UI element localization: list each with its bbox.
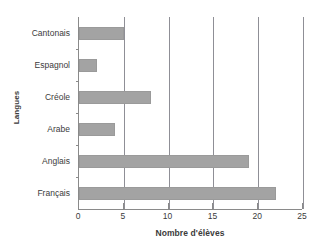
- bar: [79, 155, 249, 168]
- x-axis-tick-label: 20: [252, 212, 261, 221]
- bar: [79, 91, 151, 104]
- bar: [79, 123, 115, 136]
- plot-area: [78, 17, 303, 209]
- x-axis-title: Nombre d'élèves: [78, 228, 302, 238]
- bar: [79, 187, 276, 200]
- y-axis-tick-labels: CantonaisEspagnolCréoleArabeAnglaisFranç…: [20, 17, 74, 209]
- y-axis-tick-label: Français: [20, 177, 74, 209]
- bar: [79, 59, 97, 72]
- x-axis-tick: [302, 203, 303, 209]
- x-axis-tick: [257, 203, 258, 209]
- x-axis-tick: [212, 203, 213, 209]
- y-axis-tick-label: Anglais: [20, 145, 74, 177]
- bar: [79, 27, 124, 40]
- x-axis-line: [78, 209, 302, 210]
- x-axis-tick-label: 15: [208, 212, 217, 221]
- x-axis-tick: [168, 203, 169, 209]
- gridline: [303, 17, 304, 209]
- x-axis-tick-label: 10: [163, 212, 172, 221]
- x-axis-tick: [123, 203, 124, 209]
- bar-series: [79, 17, 303, 209]
- x-axis-tick-labels: 0510152025: [78, 212, 302, 225]
- x-axis-tick-label: 0: [76, 212, 81, 221]
- bar-row: [79, 49, 303, 81]
- y-axis-tick-label: Créole: [20, 81, 74, 113]
- bar-row: [79, 81, 303, 113]
- bar-row: [79, 17, 303, 49]
- y-axis-tick-label: Arabe: [20, 113, 74, 145]
- x-axis-tick-label: 25: [297, 212, 306, 221]
- x-axis-tick-label: 5: [120, 212, 125, 221]
- bar-chart-figure: Langues CantonaisEspagnolCréoleArabeAngl…: [0, 0, 331, 251]
- bar-row: [79, 113, 303, 145]
- y-axis-tick-label: Espagnol: [20, 49, 74, 81]
- x-axis-tick: [78, 203, 79, 209]
- x-axis-ticks: [78, 203, 302, 209]
- y-axis-tick-label: Cantonais: [20, 17, 74, 49]
- bar-row: [79, 145, 303, 177]
